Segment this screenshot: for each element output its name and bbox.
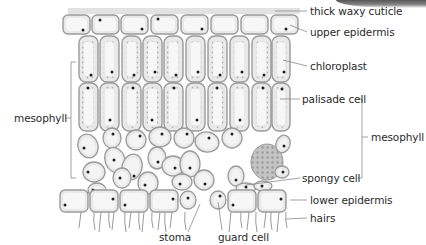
label-hairs: hairs bbox=[310, 212, 335, 224]
upper-epidermis-cells bbox=[63, 15, 298, 34]
hairs bbox=[79, 212, 287, 232]
label-stoma: stoma bbox=[159, 231, 191, 243]
label-thick-waxy-cuticle: thick waxy cuticle bbox=[310, 5, 402, 17]
cuticle-layer bbox=[68, 8, 300, 14]
label-mesophyll-right: mesophyll bbox=[371, 131, 424, 143]
lower-epidermis-cells bbox=[60, 190, 286, 212]
label-chloroplast: chloroplast bbox=[310, 60, 367, 72]
label-upper-epidermis: upper epidermis bbox=[310, 26, 395, 38]
leaf-cross-section-diagram: thick waxy cuticle upper epidermis chlor… bbox=[0, 0, 426, 245]
label-lower-epidermis: lower epidermis bbox=[310, 194, 392, 206]
label-spongy-cell: spongy cell bbox=[302, 172, 360, 184]
spongy-cells bbox=[74, 127, 292, 197]
label-mesophyll-left: mesophyll bbox=[14, 112, 67, 124]
label-guard-cell: guard cell bbox=[218, 231, 269, 243]
label-palisade-cell: palisade cell bbox=[302, 93, 366, 105]
palisade-cells bbox=[79, 36, 290, 131]
